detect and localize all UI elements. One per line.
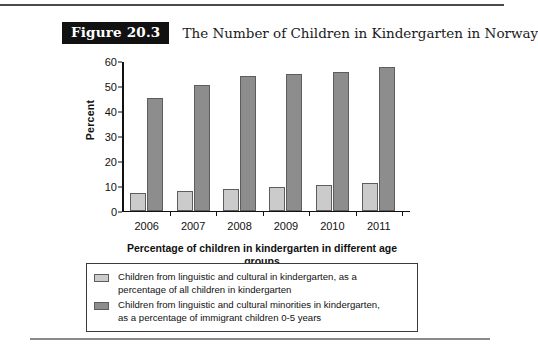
chart-legend: Children from linguistic and cultural in… [86,263,418,332]
x-tick-label: 2008 [217,220,263,232]
x-axis-line [122,211,410,213]
bar [362,183,378,210]
legend-item: Children from linguistic and cultural in… [94,271,409,296]
figure-number-badge: Figure 20.3 [62,22,169,45]
top-divider-rule [0,4,504,6]
bar [379,67,395,211]
y-tick-label: 60 [91,56,117,68]
y-tick-mark [118,162,122,163]
bar [269,187,285,210]
bottom-divider-rule [30,338,490,340]
y-tick-label: 20 [91,156,117,168]
figure-header: Figure 20.3 The Number of Children in Ki… [62,18,462,48]
legend-label-line1: Children from linguistic and cultural mi… [118,299,380,312]
bar [240,76,256,211]
legend-label: Children from linguistic and cultural in… [118,271,357,296]
bar [286,74,302,211]
bar [194,85,210,210]
x-tick-mark [216,211,217,216]
legend-swatch-dark-icon [94,302,109,310]
legend-label-line1: Children from linguistic and cultural in… [118,271,357,284]
x-tick-label: 2011 [356,220,402,232]
x-axis-title-line1: Percentage of children in kindergarten [127,242,319,254]
y-tick-mark [118,137,122,138]
legend-label: Children from linguistic and cultural mi… [118,299,380,324]
y-tick-label: 30 [91,131,117,143]
bar [130,193,146,210]
bar-chart: Percent 200620072008200920102011 0102030… [122,62,402,212]
y-tick-mark [118,62,122,63]
y-tick-label: 40 [91,106,117,118]
x-tick-mark [402,211,403,216]
bar [177,191,193,210]
bar-group [309,62,355,211]
legend-label-line2: as a percentage of immigrant children 0-… [118,312,380,325]
y-tick-label: 0 [91,206,117,218]
y-tick-mark [118,187,122,188]
figure-title: The Number of Children in Kindergarten i… [182,25,538,41]
bar-group [170,62,216,211]
legend-item: Children from linguistic and cultural mi… [94,299,409,324]
bar-group [124,62,170,211]
y-tick-label: 10 [91,181,117,193]
y-tick-mark [118,212,122,213]
x-tick-label: 2009 [263,220,309,232]
bar [223,189,239,211]
bar-group [356,62,402,211]
x-tick-label: 2007 [170,220,216,232]
x-tick-mark [263,211,264,216]
bar [333,72,349,210]
bar-group [216,62,262,211]
plot-area: 200620072008200920102011 [124,62,403,211]
y-tick-mark [118,112,122,113]
bar [147,98,163,211]
x-tick-mark [309,211,310,216]
x-tick-mark [170,211,171,216]
y-tick-label: 50 [91,81,117,93]
y-tick-mark [118,87,122,88]
x-tick-mark [356,211,357,216]
bar [316,185,332,210]
x-tick-label: 2006 [124,220,170,232]
legend-swatch-light-icon [94,274,109,282]
bar-group [263,62,309,211]
legend-label-line2: percentage of all children in kindergart… [118,284,357,297]
x-tick-label: 2010 [309,220,355,232]
